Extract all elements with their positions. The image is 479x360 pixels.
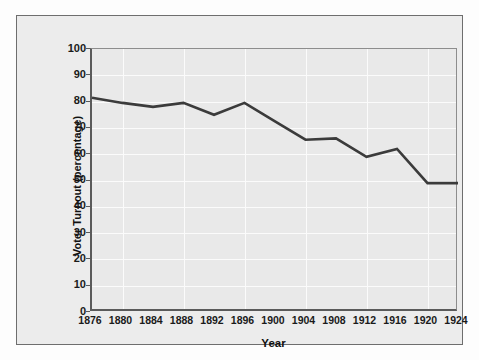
x-axis-title: Year [90, 337, 457, 349]
y-axis-tick-mark [86, 101, 90, 102]
x-axis-tick-label: 1924 [436, 315, 476, 326]
voter-turnout-line [92, 98, 458, 183]
y-axis-tick-label: 80 [52, 95, 86, 106]
y-axis-tick-label: 10 [52, 279, 86, 290]
y-axis-tick-labels: 1009080706050403020100 [50, 48, 86, 311]
y-axis-tick-mark [86, 127, 90, 128]
y-axis-tick-mark [86, 48, 90, 49]
y-axis-tick-label: 90 [52, 69, 86, 80]
y-axis-tick-label: 40 [52, 200, 86, 211]
y-axis-tick-mark [86, 258, 90, 259]
y-axis-tick-label: 30 [52, 227, 86, 238]
figure-frame: Voter Turnout (percentage) 1009080706050… [16, 15, 463, 345]
y-axis-tick-label: 20 [52, 253, 86, 264]
y-axis-tick-mark [86, 153, 90, 154]
y-axis-tick-label: 50 [52, 174, 86, 185]
y-axis-tick-mark [86, 285, 90, 286]
y-axis-tick-mark [86, 232, 90, 233]
x-axis-tick-labels: 1876188018841888189218961900190419081912… [90, 315, 457, 331]
plot-area [90, 48, 457, 311]
y-axis-tick-mark [86, 74, 90, 75]
y-axis-tick-mark [86, 311, 90, 312]
chart-screenshot: Voter Turnout (percentage) 1009080706050… [0, 0, 479, 360]
line-series [92, 49, 459, 312]
y-axis-tick-label: 60 [52, 148, 86, 159]
y-axis-tick-mark [86, 206, 90, 207]
y-axis-tick-mark [86, 180, 90, 181]
y-axis-tick-label: 70 [52, 121, 86, 132]
y-axis-tick-label: 100 [52, 43, 86, 54]
